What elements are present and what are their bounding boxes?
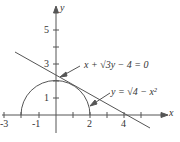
x-axis-label: x bbox=[169, 107, 173, 118]
y-axis-arrow-icon bbox=[54, 6, 59, 13]
x-axis-arrow-icon bbox=[161, 113, 168, 118]
curve-equation-label: y = √4 − x² bbox=[111, 86, 157, 97]
y-axis-label: y bbox=[60, 2, 64, 13]
x-tick-label: 2 bbox=[87, 118, 92, 129]
x-tick-label: -3 bbox=[0, 118, 8, 129]
line-equation-label: x + √3y − 4 = 0 bbox=[84, 59, 149, 70]
x-tick-label: -1 bbox=[32, 118, 40, 129]
y-tick-label: 5 bbox=[44, 24, 49, 35]
curve-pointer-arrowhead-icon bbox=[90, 100, 97, 106]
line-pointer-arrowhead-icon bbox=[60, 72, 67, 77]
y-tick-label: 3 bbox=[44, 58, 49, 69]
x-tick-label: 4 bbox=[121, 118, 126, 129]
y-tick-label: 1 bbox=[44, 92, 49, 103]
